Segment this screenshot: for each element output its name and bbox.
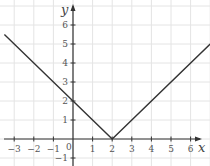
curve-line xyxy=(4,35,210,140)
graph-canvas: −3−2−1123456−1123456 x y 0 xyxy=(0,0,210,166)
y-axis-arrow-icon xyxy=(71,4,76,11)
y-tick-label: 5 xyxy=(62,39,68,49)
x-tick-label: −2 xyxy=(27,144,40,154)
y-tick-label: −1 xyxy=(55,153,68,163)
x-tick-label: 3 xyxy=(129,144,135,154)
x-tick-label: 4 xyxy=(149,144,155,154)
y-tick-label: 3 xyxy=(62,77,68,87)
x-tick-label: 1 xyxy=(90,144,96,154)
y-tick-label: 4 xyxy=(62,58,68,68)
y-axis-label: y xyxy=(60,2,69,17)
function-curve xyxy=(4,35,210,140)
axis-ticks: −3−2−1123456−1123456 xyxy=(8,20,194,163)
y-tick-label: 1 xyxy=(62,115,68,125)
y-tick-label: 6 xyxy=(62,20,68,30)
x-axis-label: x xyxy=(198,140,206,155)
x-tick-label: 2 xyxy=(109,144,115,154)
y-tick-label: 2 xyxy=(62,96,68,106)
x-tick-label: 5 xyxy=(168,144,174,154)
x-tick-label: −3 xyxy=(8,144,22,154)
grid-lines xyxy=(0,0,210,166)
origin-label: 0 xyxy=(66,142,72,152)
x-tick-label: 6 xyxy=(188,144,194,154)
